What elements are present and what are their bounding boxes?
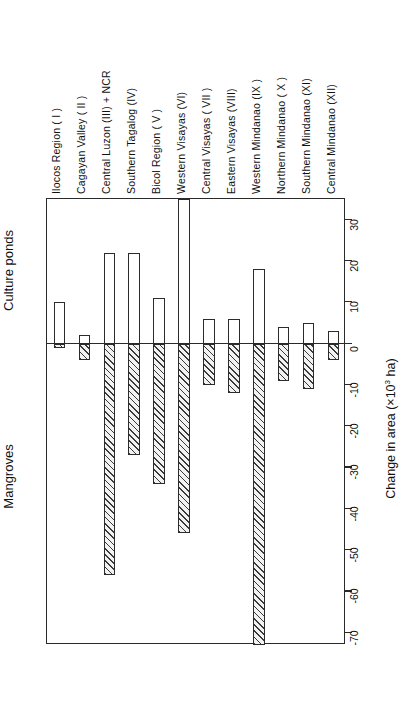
value-axis: Change in area (×103 ha) 3020100-10-20-3… <box>345 198 415 644</box>
category-label-strip: Ilocos Region ( I )Cagayan Valley ( II )… <box>0 0 415 196</box>
axis-title: Change in area (×103 ha) <box>383 358 398 498</box>
bar-mangroves <box>228 344 239 394</box>
group-label-mangroves: Mangroves <box>1 444 16 508</box>
bar-culture-ponds <box>128 253 139 344</box>
bar-mangroves <box>203 344 214 385</box>
category-label: Cagayan Valley ( II ) <box>75 95 87 194</box>
group-label-culture-ponds: Culture ponds <box>1 230 16 311</box>
axis-tick-label: -50 <box>348 547 360 562</box>
bar-slot <box>128 199 139 643</box>
bar-slot <box>228 199 239 643</box>
bar-slot <box>178 199 189 643</box>
bar-culture-ponds <box>104 253 115 344</box>
bar-slot <box>153 199 164 643</box>
bar-culture-ponds <box>228 319 239 344</box>
category-label: Central Mindanao (XII) <box>325 84 337 194</box>
axis-tick-label: -20 <box>348 424 360 439</box>
category-label: Eastern Visayas (VIII) <box>225 88 237 194</box>
axis-tick-label: -40 <box>348 506 360 521</box>
bar-mangroves <box>328 344 339 361</box>
axis-tick-label: 30 <box>348 219 360 231</box>
bar-culture-ponds <box>278 327 289 344</box>
category-label: Bicol Region ( V ) <box>150 109 162 194</box>
bar-culture-ponds <box>303 323 314 344</box>
bar-mangroves <box>303 344 314 389</box>
plot-area <box>46 198 345 644</box>
bar-mangroves <box>79 344 90 361</box>
bar-culture-ponds <box>328 331 339 343</box>
axis-title-text: Change in area (×103 ha) <box>385 358 399 498</box>
bar-mangroves <box>128 344 139 456</box>
bar-slot <box>278 199 289 643</box>
bar-mangroves <box>178 344 189 534</box>
category-label: Southern Tagalog (IV) <box>125 88 137 194</box>
axis-tick-label: -10 <box>348 382 360 397</box>
bar-culture-ponds <box>153 298 164 343</box>
bar-culture-ponds <box>54 302 65 343</box>
bar-slot <box>203 199 214 643</box>
category-label: Northern Mindanao ( X ) <box>275 77 287 194</box>
bar-mangroves <box>253 344 264 645</box>
axis-tick-label: -70 <box>348 630 360 645</box>
bar-culture-ponds <box>253 269 264 343</box>
category-label: Central Visayas ( VII ) <box>200 87 212 194</box>
zero-reference-line <box>47 343 344 345</box>
bar-slot <box>253 199 264 643</box>
bar-slot <box>54 199 65 643</box>
bar-slot <box>104 199 115 643</box>
axis-tick-label: -30 <box>348 465 360 480</box>
bar-slot <box>303 199 314 643</box>
category-label: Central Luzon (III) + NCR <box>100 70 112 194</box>
axis-tick <box>345 343 352 344</box>
bar-mangroves <box>104 344 115 575</box>
chart-figure: Ilocos Region ( I )Cagayan Valley ( II )… <box>0 0 415 716</box>
axis-tick-label: -60 <box>348 589 360 604</box>
category-label: Southern Mindanao (XI) <box>300 78 312 194</box>
category-label: Western Mindanao (IX ) <box>250 79 262 194</box>
bar-mangroves <box>153 344 164 484</box>
bar-slot <box>79 199 90 643</box>
bar-culture-ponds <box>178 199 189 344</box>
axis-tick-label: 0 <box>348 346 360 352</box>
category-label: Ilocos Region ( I ) <box>50 108 62 194</box>
axis-tick-label: 20 <box>348 260 360 272</box>
category-label: Western Visayas (VI) <box>175 92 187 194</box>
bar-culture-ponds <box>203 319 214 344</box>
axis-tick-label: 10 <box>348 301 360 313</box>
bar-slot <box>328 199 339 643</box>
bar-mangroves <box>278 344 289 381</box>
bar-group <box>47 199 344 643</box>
